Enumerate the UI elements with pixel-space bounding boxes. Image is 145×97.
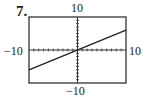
graph-window xyxy=(0,0,145,97)
